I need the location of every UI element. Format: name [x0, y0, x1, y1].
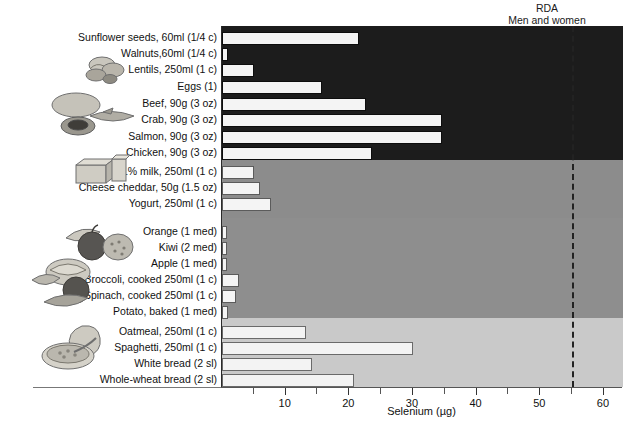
- rda-title: RDA: [492, 2, 602, 14]
- bar-row: [222, 258, 623, 271]
- rda-reference-line: [572, 26, 574, 387]
- x-axis: 102030405060: [221, 387, 622, 388]
- bar-row: [222, 374, 623, 387]
- bar-row: [222, 147, 623, 160]
- axis-tick-minor: [380, 388, 381, 394]
- axis-tick-minor: [316, 388, 317, 394]
- bar-row: [222, 81, 623, 94]
- bar-row: [222, 114, 623, 127]
- vegetables-illustration: [28, 258, 120, 310]
- bar-row: [222, 131, 623, 144]
- bar-row: [222, 342, 623, 355]
- nuts-seeds-illustration: [80, 55, 140, 87]
- bar: [222, 182, 260, 195]
- bar: [222, 274, 239, 287]
- bar-row: [222, 98, 623, 111]
- bar-row: [222, 198, 623, 211]
- bar-row: [222, 358, 623, 371]
- bar: [222, 306, 228, 319]
- bar: [222, 374, 354, 387]
- bar: [222, 131, 442, 144]
- bar: [222, 358, 312, 371]
- bar-row: [222, 290, 623, 303]
- rda-subtitle: Men and women: [472, 14, 622, 26]
- bar: [222, 147, 372, 160]
- bar: [222, 342, 413, 355]
- bar-row: [222, 64, 623, 77]
- bar-row: [222, 326, 623, 339]
- axis-tick-major: [539, 388, 540, 395]
- bar-row: [222, 242, 623, 255]
- axis-tick-minor: [253, 388, 254, 394]
- meat-fish-illustration: [48, 90, 146, 138]
- bar: [222, 226, 227, 239]
- bar: [222, 198, 271, 211]
- bar: [222, 48, 228, 61]
- axis-tick-minor: [571, 388, 572, 394]
- bar: [222, 81, 322, 94]
- bar: [222, 166, 254, 179]
- axis-tick-major: [348, 388, 349, 395]
- axis-tick-minor: [507, 388, 508, 394]
- bar: [222, 326, 306, 339]
- bar: [222, 114, 442, 127]
- axis-tick-major: [476, 388, 477, 395]
- bar-row: [222, 166, 623, 179]
- bar: [222, 258, 227, 271]
- bar-row: [222, 48, 623, 61]
- bar-row: [222, 182, 623, 195]
- x-axis-title: Selenium (µg): [221, 405, 622, 417]
- bar-row: [222, 274, 623, 287]
- category-label: Whole-wheat bread (2 sl): [1, 373, 221, 386]
- bar-row: [222, 306, 623, 319]
- bar-row: [222, 226, 623, 239]
- bar: [222, 64, 254, 77]
- selenium-food-chart: RDA Men and women Sunflower seeds, 60ml …: [0, 0, 631, 424]
- category-label: Sunflower seeds, 60ml (1/4 c): [1, 31, 221, 44]
- plot-area: [221, 26, 622, 387]
- bar: [222, 290, 236, 303]
- grains-illustration: [38, 322, 124, 372]
- category-label: Yogurt, 250ml (1 c): [1, 197, 221, 210]
- bar: [222, 32, 359, 45]
- axis-left-rule: [33, 387, 221, 388]
- axis-tick-major: [285, 388, 286, 395]
- bar: [222, 98, 366, 111]
- axis-tick-minor: [444, 388, 445, 394]
- bar: [222, 242, 227, 255]
- axis-tick-major: [603, 388, 604, 395]
- dairy-illustration: [72, 155, 130, 189]
- bar-row: [222, 32, 623, 45]
- axis-tick-major: [412, 388, 413, 395]
